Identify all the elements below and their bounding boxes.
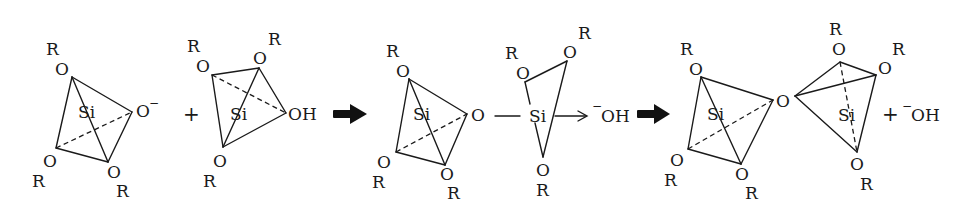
plus-sign: + <box>882 102 899 126</box>
r-label: R <box>664 170 678 190</box>
reaction-arrow <box>637 104 670 124</box>
si-label: Si <box>707 104 725 124</box>
siloxane-left-tetrahedron: R O Si O R O R <box>664 39 773 203</box>
r-label: R <box>187 36 201 56</box>
r-label: R <box>892 39 906 59</box>
bridging-o-label: O <box>776 91 790 111</box>
o-label: O <box>563 42 577 62</box>
r-label: R <box>203 171 217 191</box>
o-label: O <box>440 164 454 184</box>
r-label: R <box>116 181 130 201</box>
plus-sign: + <box>183 102 200 126</box>
o-label: O <box>536 160 550 180</box>
si-label: Si <box>230 104 248 124</box>
silanolate-tetrahedron: R O Si O − O R O R <box>32 39 159 201</box>
o-label: O <box>396 61 410 81</box>
r-label: R <box>268 29 282 49</box>
si-label: Si <box>78 102 96 122</box>
o-label: O <box>878 58 892 78</box>
o-label: O <box>107 162 121 182</box>
minus-charge: − <box>149 96 159 110</box>
o-label: O <box>850 154 864 174</box>
r-label: R <box>745 183 759 203</box>
o-label: O <box>516 63 530 83</box>
r-label: R <box>505 43 519 63</box>
leaving-oh-label: OH <box>601 106 630 126</box>
r-label: R <box>372 172 386 192</box>
o-label: O <box>689 59 703 79</box>
silanol-tetrahedron: R O R O Si OH O R <box>187 29 317 191</box>
r-label: R <box>536 180 550 200</box>
reaction-arrow <box>333 104 367 124</box>
o-label: O <box>253 48 267 68</box>
oh-label: OH <box>288 104 317 124</box>
o-label: O <box>55 59 69 79</box>
r-label: R <box>447 183 461 203</box>
reaction-scheme: R O Si O − O R O R + R O R O Si OH O R <box>0 0 966 221</box>
r-label: R <box>680 39 694 59</box>
o-label: O <box>213 151 227 171</box>
r-label: R <box>578 23 592 43</box>
si-label: Si <box>529 106 547 126</box>
o-minus-label: O <box>136 101 150 121</box>
r-label: R <box>32 171 46 191</box>
o-label: O <box>735 164 749 184</box>
bridging-o-label: O <box>471 105 485 125</box>
intermediate-attacked-si: R O R O Si − OH O R <box>495 23 630 200</box>
r-label: R <box>46 39 60 59</box>
o-label: O <box>377 152 391 172</box>
si-label: Si <box>838 105 856 125</box>
r-label: R <box>386 41 400 61</box>
intermediate-left-tetrahedron: R O Si O O R O R <box>372 41 485 203</box>
byproduct-oh-label: OH <box>911 105 940 125</box>
o-label: O <box>670 150 684 170</box>
o-label: O <box>196 56 210 76</box>
r-label: R <box>860 174 874 194</box>
o-label: O <box>832 39 846 59</box>
o-label: O <box>43 151 57 171</box>
r-label: R <box>829 19 843 39</box>
si-label: Si <box>413 104 431 124</box>
